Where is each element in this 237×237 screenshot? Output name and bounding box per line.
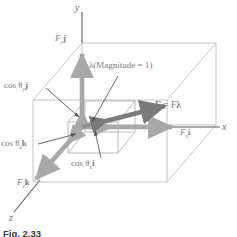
cos-x-prefix: cos xyxy=(71,158,85,168)
label-cos-theta-z: cos θzk xyxy=(1,139,27,150)
label-cos-theta-y: cos θyj xyxy=(4,81,28,92)
outer-box-edge-br xyxy=(167,125,216,182)
arrow-cos-theta-z xyxy=(68,127,82,143)
force-eq-sign: = xyxy=(161,100,171,110)
axis-label-x: x xyxy=(222,122,226,132)
outer-box-edge-tr xyxy=(167,43,216,100)
leader-lines xyxy=(38,76,118,158)
leader-cos-theta-x xyxy=(95,131,101,158)
cos-y-unit: j xyxy=(25,80,28,90)
force-z-unit: k xyxy=(25,177,30,187)
cos-y-prefix: cos xyxy=(4,80,18,90)
label-force-z-component: Fzk xyxy=(17,178,30,189)
label-cos-theta-x: cos θxi xyxy=(71,159,95,170)
label-force-vector-equation: F = Fλ xyxy=(155,101,181,111)
label-force-y-component: Fyj xyxy=(55,34,66,45)
leader-lambda xyxy=(92,76,118,122)
label-lambda-magnitude: λ(Magnitude = 1) xyxy=(89,61,152,70)
figure-container: y x z Fyj Fxi Fzk cos θyj cos θzk cos θx… xyxy=(0,0,237,237)
cos-z-prefix: cos xyxy=(1,138,15,148)
inner-box-edge-br xyxy=(118,132,135,153)
axis-label-y: y xyxy=(75,3,79,13)
force-eq-direction: λ xyxy=(176,100,181,110)
vector-diagram-graphic xyxy=(0,0,237,237)
outer-box-back-face xyxy=(82,43,216,125)
cos-z-unit: k xyxy=(22,138,27,148)
force-y-unit: j xyxy=(63,33,66,43)
figure-caption: Fig. 2.33 xyxy=(3,229,41,237)
label-force-x-component: Fxi xyxy=(180,128,191,139)
axis-label-z: z xyxy=(9,213,13,223)
leader-cos-theta-y xyxy=(46,88,79,117)
force-x-unit: i xyxy=(188,127,191,137)
cos-x-unit: i xyxy=(92,158,95,168)
outer-box-edge-tl xyxy=(33,43,82,100)
